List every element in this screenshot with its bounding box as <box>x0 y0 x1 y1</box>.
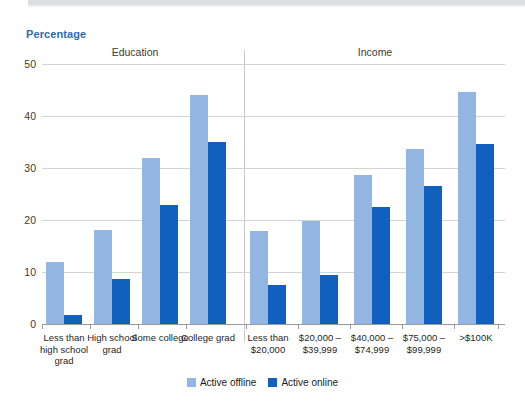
y-axis-tick: 10 <box>6 267 36 277</box>
legend-item-offline[interactable]: Active offline <box>187 377 257 388</box>
bar-online[interactable] <box>268 285 286 324</box>
x-axis-tick <box>186 324 187 329</box>
bar-offline[interactable] <box>142 158 160 324</box>
bar-offline[interactable] <box>458 92 476 324</box>
bar-offline[interactable] <box>354 175 372 324</box>
bar-offline[interactable] <box>302 221 320 324</box>
x-axis-tick <box>42 324 43 329</box>
panel-label-education: Education <box>90 46 180 58</box>
bar-online[interactable] <box>112 279 130 324</box>
bar-offline[interactable] <box>94 230 112 324</box>
gridline <box>42 64 505 65</box>
legend-swatch-online <box>268 378 277 387</box>
y-axis-tick: 20 <box>6 215 36 225</box>
x-axis-tick <box>402 324 403 329</box>
y-axis-tick-label: 10 <box>6 267 36 278</box>
legend-label-online: Active online <box>281 377 338 388</box>
x-axis-tick <box>350 324 351 329</box>
x-axis-tick <box>498 324 499 329</box>
y-axis-tick-label: 0 <box>6 319 36 330</box>
x-axis-tick <box>454 324 455 329</box>
y-axis-tick: 50 <box>6 59 36 69</box>
bar-offline[interactable] <box>250 231 268 324</box>
bar-offline[interactable] <box>46 262 64 324</box>
bar-offline[interactable] <box>190 95 208 324</box>
y-axis-tick-label: 40 <box>6 111 36 122</box>
x-axis-category-label: College grad <box>175 332 241 344</box>
page-top-band-shadow <box>28 5 525 7</box>
x-axis-tick <box>138 324 139 329</box>
panel-label-income: Income <box>330 46 420 58</box>
bar-offline[interactable] <box>406 149 424 324</box>
y-axis-tick-label: 30 <box>6 163 36 174</box>
y-axis-title: Percentage <box>26 28 86 40</box>
bar-online[interactable] <box>320 275 338 324</box>
plot-area <box>42 64 505 324</box>
chart-container: Percentage Education Income 01020304050 … <box>0 0 525 410</box>
x-axis-line <box>42 324 505 325</box>
y-axis-tick-label: 50 <box>6 59 36 70</box>
y-axis-tick-label: 20 <box>6 215 36 226</box>
gridline <box>42 168 505 169</box>
legend-label-offline: Active offline <box>200 377 257 388</box>
x-axis-tick <box>298 324 299 329</box>
y-axis-tick: 0 <box>6 319 36 329</box>
bar-online[interactable] <box>64 315 82 324</box>
legend-item-online[interactable]: Active online <box>268 377 338 388</box>
x-axis-tick <box>90 324 91 329</box>
legend-swatch-offline <box>187 378 196 387</box>
bar-online[interactable] <box>208 142 226 324</box>
y-axis-tick: 30 <box>6 163 36 173</box>
bar-online[interactable] <box>424 186 442 324</box>
bar-online[interactable] <box>476 144 494 324</box>
bar-online[interactable] <box>160 205 178 324</box>
gridline <box>42 116 505 117</box>
x-axis-tick <box>246 324 247 329</box>
bar-online[interactable] <box>372 207 390 324</box>
chart-legend: Active offline Active online <box>0 377 525 388</box>
y-axis-tick: 40 <box>6 111 36 121</box>
x-axis-category-label: >$100K <box>443 332 509 344</box>
